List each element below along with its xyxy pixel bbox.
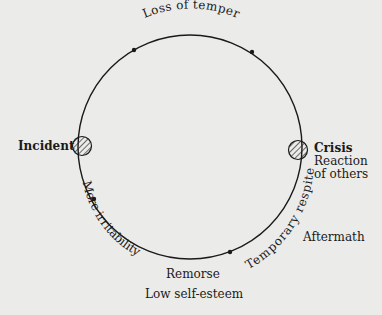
arc-label-temporary-respite: Temporary respite <box>243 167 317 272</box>
aftermath-label: Aftermath <box>303 231 365 244</box>
arc-label-more-irritability: More irritability <box>80 179 143 259</box>
remorse-label: Remorse <box>166 268 220 281</box>
arrow-marker-icon <box>250 50 254 54</box>
low-self-esteem-label: Low self-esteem <box>145 288 243 301</box>
incident-label: Incident <box>18 140 75 153</box>
arrow-marker-icon <box>132 48 136 52</box>
crisis-sub-label-2: of others <box>314 168 368 181</box>
arrow-marker-icon <box>228 250 232 254</box>
crisis-node-icon <box>289 141 308 160</box>
arc-label-loss-of-temper: Loss of temper <box>141 0 242 21</box>
incident-node-icon <box>73 137 92 156</box>
